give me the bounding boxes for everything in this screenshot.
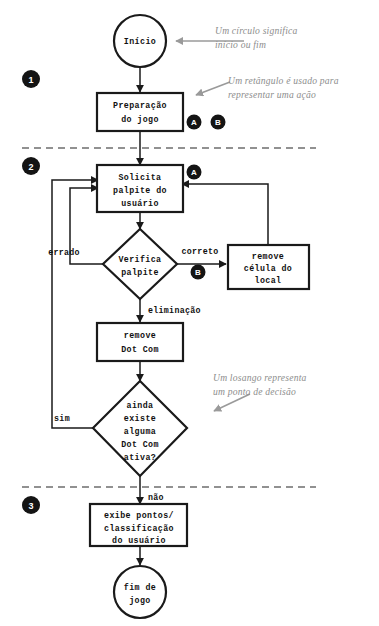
ask-guess-label-line2: palpite do (113, 186, 167, 195)
stage-2-label: 2 (28, 162, 33, 172)
show-score-label-line2: classificação (104, 524, 174, 533)
stage-1-label: 1 (28, 75, 33, 85)
node-ask-guess[interactable]: Solicita palpite do usuário (97, 165, 183, 212)
stage-3-label: 3 (28, 501, 33, 511)
note-diamond-line1: Um losango representa (213, 372, 307, 383)
edge-label-correto: correto (182, 247, 219, 256)
flow-badge-a: A (187, 165, 202, 180)
any-active-label-line4: Dot Com (121, 440, 159, 449)
any-active-label-line2: existe (124, 414, 156, 423)
remove-dotcom-label-line2: Dot Com (121, 345, 159, 354)
check-guess-label-line2: palpite (121, 268, 159, 277)
start-label: Início (124, 37, 156, 46)
legend-badge-b: B (211, 115, 226, 130)
stage-badge-3: 3 (22, 496, 40, 514)
edge-label-nao: não (148, 493, 164, 502)
remove-dotcom-label-line1: remove (124, 331, 156, 340)
ask-guess-label-line3: usuário (121, 199, 159, 208)
remove-dotcom-rect-shape (97, 323, 183, 361)
stage-badge-2: 2 (22, 157, 40, 175)
remove-cell-label-line3: local (255, 276, 282, 285)
node-end[interactable]: fim de jogo (114, 566, 166, 618)
legend-a-label: A (191, 118, 197, 127)
edge-label-sim: sim (54, 414, 70, 423)
edge-label-eliminacao: eliminação (148, 306, 201, 315)
note-circle-line2: início ou fim (215, 39, 266, 50)
any-active-label-line3: alguma (124, 427, 156, 436)
note-rectangle-line1: Um retângulo é usado para (228, 75, 339, 86)
edge-label-errado: errado (48, 248, 80, 257)
edge-anyactive-sim-to-ask (52, 180, 98, 428)
node-show-score[interactable]: exibe pontos/ classificação do usuário (90, 504, 187, 546)
node-remove-cell[interactable]: remove célula do local (228, 245, 309, 289)
any-active-label-line5: ativa? (124, 453, 156, 462)
setup-label-line1: Preparação (113, 101, 167, 110)
edge-removecell-to-ask (182, 184, 268, 245)
check-guess-diamond-shape (103, 229, 177, 299)
legend-b-label: B (215, 118, 221, 127)
setup-rect-shape (97, 93, 183, 131)
end-label-line2: jogo (129, 596, 151, 605)
remove-cell-label-line2: célula do (244, 264, 292, 273)
ask-guess-label-line1: Solicita (118, 173, 161, 182)
flow-badge-b: B (191, 265, 206, 280)
remove-cell-label-line1: remove (252, 252, 284, 261)
flow-b-label: B (195, 268, 201, 277)
note-arrow-rectangle (196, 82, 230, 95)
note-rectangle-line2: representar uma ação (228, 89, 316, 100)
flowchart-canvas: Início Preparação do jogo Solicita palpi… (0, 0, 379, 626)
node-any-active[interactable]: ainda existe alguma Dot Com ativa? (93, 381, 187, 476)
node-start[interactable]: Início (114, 15, 166, 67)
node-check-guess[interactable]: Verifica palpite (103, 229, 177, 299)
flowchart-page: Início Preparação do jogo Solicita palpi… (0, 0, 379, 626)
end-circle-shape (114, 566, 166, 618)
show-score-label-line3: do usuário (112, 536, 166, 545)
setup-label-line2: do jogo (121, 115, 159, 124)
check-guess-label-line1: Verifica (118, 255, 161, 264)
flow-a-label: A (191, 168, 197, 177)
end-label-line1: fim de (124, 583, 156, 592)
node-remove-dotcom[interactable]: remove Dot Com (97, 323, 183, 361)
show-score-label-line1: exibe pontos/ (104, 511, 174, 520)
node-setup[interactable]: Preparação do jogo (97, 93, 183, 131)
legend-badge-a: A (187, 115, 202, 130)
stage-badge-1: 1 (22, 70, 40, 88)
note-diamond-line2: um ponto de decisão (213, 386, 296, 397)
any-active-label-line1: ainda (127, 401, 154, 410)
note-circle-line1: Um círculo significa (215, 25, 298, 36)
